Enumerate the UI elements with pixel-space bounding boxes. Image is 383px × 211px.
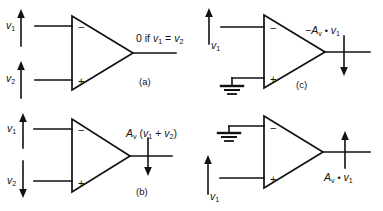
- v1-arrow-head: [205, 8, 213, 17]
- output-expression-d: Av • v1: [324, 172, 353, 183]
- caption-c: (c): [296, 79, 307, 90]
- v1-arrow-head: [204, 155, 212, 164]
- panel-b-circuit: − +: [0, 106, 191, 211]
- v1-input-label: v1: [210, 191, 219, 202]
- minus-terminal-symbol: −: [78, 21, 84, 33]
- panel-d-circuit: − +: [192, 106, 383, 211]
- plus-terminal-symbol: +: [78, 75, 84, 87]
- v2-arrow-head: [17, 61, 25, 70]
- v2-input-label: v2: [6, 73, 15, 84]
- plus-terminal-symbol: +: [78, 177, 84, 189]
- v1-arrow-head: [19, 113, 27, 122]
- panel-b: − + v1 v2 Av (v1 + v2) (b): [0, 106, 191, 211]
- panel-c-circuit: − +: [192, 0, 383, 105]
- output-arrow-head: [340, 67, 348, 76]
- output-arrow-head: [144, 167, 152, 176]
- output-expression-a: 0 if v1 = v2: [136, 33, 183, 44]
- output-arrow-head: [341, 131, 349, 140]
- v1-arrow-head: [17, 9, 25, 18]
- minus-terminal-symbol: −: [270, 122, 276, 134]
- v1-input-label: v1: [7, 123, 16, 134]
- plus-terminal-symbol: +: [270, 173, 276, 185]
- plus-terminal-symbol: +: [270, 73, 276, 85]
- panel-a-circuit: − +: [0, 0, 191, 105]
- panel-d: − + v1 Av • v1: [192, 106, 383, 211]
- v2-input-label: v2: [7, 175, 16, 186]
- output-expression-c: −Av • v1: [305, 25, 340, 36]
- v2-arrow-head: [19, 189, 27, 198]
- minus-terminal-symbol: −: [270, 22, 276, 34]
- panel-a: − + v1 v2 0 if v1 = v2 (a): [0, 0, 191, 105]
- v1-input-label: v1: [6, 20, 15, 31]
- panel-c: − + v1 −Av • v1 (c): [192, 0, 383, 105]
- caption-b: (b): [136, 186, 148, 197]
- output-expression-b: Av (v1 + v2): [126, 128, 177, 139]
- caption-a: (a): [139, 76, 151, 87]
- v1-input-label: v1: [211, 40, 220, 51]
- opamp-figure: − + v1 v2 0 if v1 = v2 (a): [0, 0, 383, 211]
- minus-terminal-symbol: −: [78, 124, 84, 136]
